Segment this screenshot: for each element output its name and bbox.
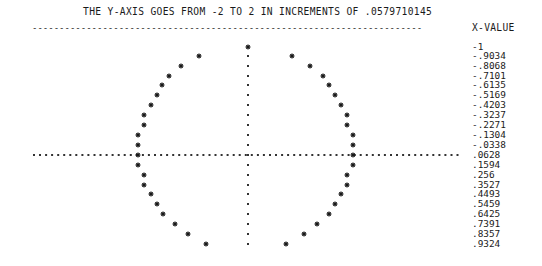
scatter-plot-area xyxy=(0,0,542,266)
axis-dot xyxy=(154,154,156,156)
axis-dot xyxy=(247,134,249,136)
axis-dot xyxy=(178,154,180,156)
asterisk-marker xyxy=(307,63,312,68)
axis-dot xyxy=(81,154,83,156)
axis-dot xyxy=(148,154,150,156)
axis-dot xyxy=(432,154,434,156)
axis-dot xyxy=(75,154,77,156)
asterisk-marker xyxy=(159,82,164,87)
axis-dot xyxy=(247,174,249,176)
axis-dot xyxy=(247,184,249,186)
asterisk-marker xyxy=(350,152,355,157)
asterisk-marker xyxy=(338,102,343,107)
axis-dot xyxy=(372,154,374,156)
axis-dot xyxy=(348,154,350,156)
axis-dot xyxy=(63,154,65,156)
axis-dot xyxy=(457,154,459,156)
axis-dot xyxy=(420,154,422,156)
asterisk-marker xyxy=(326,82,331,87)
axis-dot xyxy=(172,154,174,156)
axis-dot xyxy=(142,154,144,156)
asterisk-marker xyxy=(141,122,146,127)
axis-dot xyxy=(336,154,338,156)
axis-dot xyxy=(311,154,313,156)
axis-dot xyxy=(94,154,96,156)
asterisk-marker xyxy=(350,162,355,167)
axis-dot xyxy=(360,154,362,156)
axis-dot xyxy=(263,154,265,156)
axis-dot xyxy=(269,154,271,156)
axis-dot xyxy=(247,223,249,225)
asterisk-marker xyxy=(148,102,153,107)
axis-dot xyxy=(233,154,235,156)
asterisk-marker xyxy=(344,182,349,187)
asterisk-marker xyxy=(203,241,208,246)
asterisk-marker xyxy=(344,122,349,127)
asterisk-marker xyxy=(320,73,325,78)
axis-dot xyxy=(317,154,319,156)
axis-dot xyxy=(299,154,301,156)
asterisk-marker xyxy=(135,162,140,167)
asterisk-marker xyxy=(196,53,201,58)
asterisk-marker xyxy=(326,211,331,216)
axis-dot xyxy=(330,154,332,156)
axis-dot xyxy=(287,154,289,156)
axis-dot xyxy=(438,154,440,156)
asterisk-marker xyxy=(338,191,343,196)
axis-dot xyxy=(247,233,249,235)
axis-dot xyxy=(118,154,120,156)
axis-dot xyxy=(247,124,249,126)
axis-dot xyxy=(247,94,249,96)
axis-dot xyxy=(247,164,249,166)
axis-dot xyxy=(396,154,398,156)
asterisk-marker xyxy=(172,221,177,226)
axis-dot xyxy=(166,154,168,156)
axis-dot xyxy=(45,154,47,156)
axis-dot xyxy=(384,154,386,156)
asterisk-marker xyxy=(332,201,337,206)
axis-dot xyxy=(247,84,249,86)
asterisk-marker xyxy=(154,92,159,97)
axis-dot xyxy=(426,154,428,156)
axis-dot xyxy=(196,154,198,156)
axis-dot xyxy=(227,154,229,156)
axis-dot xyxy=(275,154,277,156)
axis-dot xyxy=(281,154,283,156)
y-zero-axis-dotted xyxy=(247,55,249,245)
asterisk-marker xyxy=(185,231,190,236)
axis-dot xyxy=(247,213,249,215)
axis-dot xyxy=(247,154,249,156)
asterisk-marker xyxy=(148,191,153,196)
asterisk-marker xyxy=(314,221,319,226)
axis-dot xyxy=(106,154,108,156)
axis-dot xyxy=(112,154,114,156)
axis-dot xyxy=(245,154,247,156)
axis-dot xyxy=(247,193,249,195)
axis-dot xyxy=(414,154,416,156)
axis-dot xyxy=(451,154,453,156)
axis-dot xyxy=(247,65,249,67)
axis-dot xyxy=(160,154,162,156)
asterisk-marker xyxy=(289,53,294,58)
axis-dot xyxy=(221,154,223,156)
axis-dot xyxy=(247,55,249,57)
axis-dot xyxy=(239,154,241,156)
axis-dot xyxy=(100,154,102,156)
x-value-label: .9324 xyxy=(472,239,500,249)
axis-dot xyxy=(190,154,192,156)
axis-dot xyxy=(247,114,249,116)
axis-dot xyxy=(342,154,344,156)
asterisk-marker xyxy=(344,172,349,177)
asterisk-marker xyxy=(135,152,140,157)
asterisk-marker xyxy=(283,241,288,246)
asterisk-marker xyxy=(332,92,337,97)
data-markers xyxy=(135,44,355,246)
axis-dot xyxy=(390,154,392,156)
axis-dot xyxy=(202,154,204,156)
axis-dot xyxy=(69,154,71,156)
asterisk-marker xyxy=(166,73,171,78)
axis-dot xyxy=(257,154,259,156)
axis-dot xyxy=(402,154,404,156)
asterisk-marker xyxy=(160,211,165,216)
asterisk-marker xyxy=(154,201,159,206)
